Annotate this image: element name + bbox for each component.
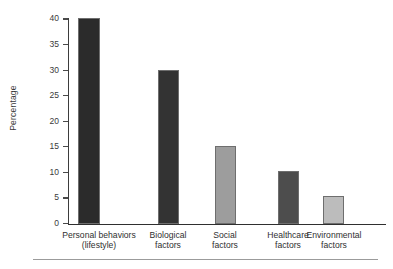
y-tick-label: 25 bbox=[39, 91, 59, 100]
bar-fill bbox=[215, 146, 236, 224]
bar bbox=[215, 146, 236, 224]
x-axis-category-label: Social factors bbox=[193, 230, 257, 251]
bar bbox=[78, 18, 100, 224]
bottom-divider-rule bbox=[33, 259, 378, 260]
y-tick-label: 0 bbox=[39, 219, 59, 228]
y-tick-label: 30 bbox=[39, 66, 59, 75]
plot-area bbox=[68, 19, 386, 224]
y-tick-label: 35 bbox=[39, 40, 59, 49]
bar-fill bbox=[278, 171, 299, 224]
bar bbox=[278, 171, 299, 224]
bar-chart-figure: Percentage 0510152025303540 Personal beh… bbox=[0, 0, 393, 269]
x-axis-category-label: Environmental factors bbox=[288, 230, 380, 251]
bar-fill bbox=[323, 196, 344, 224]
y-tick-label: 40 bbox=[39, 14, 59, 23]
bar-fill bbox=[158, 70, 179, 224]
y-axis-label: Percentage bbox=[8, 68, 18, 148]
bar bbox=[323, 196, 344, 224]
bar bbox=[158, 70, 179, 224]
y-tick-label: 10 bbox=[39, 168, 59, 177]
y-tick-label: 5 bbox=[39, 193, 59, 202]
y-tick-label: 20 bbox=[39, 117, 59, 126]
y-tick-label: 15 bbox=[39, 142, 59, 151]
bar-fill bbox=[78, 18, 100, 224]
